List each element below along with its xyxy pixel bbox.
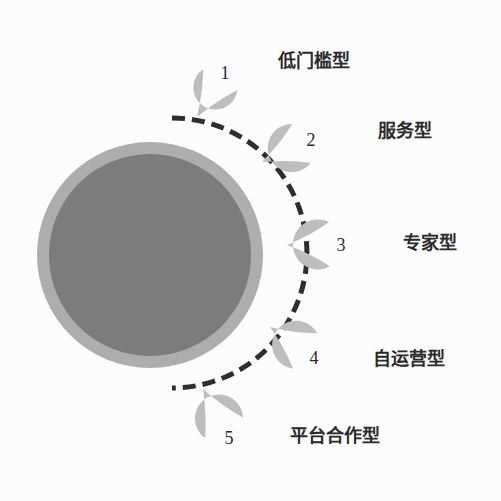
droplet-shape (193, 69, 237, 117)
droplet-5: 5 (195, 389, 243, 448)
droplet-number: 3 (337, 235, 346, 255)
label-low-threshold-type: 低门槛型 (278, 51, 350, 71)
droplet-shape (195, 389, 243, 438)
label-self-operated-type: 自运营型 (373, 349, 445, 369)
label-platform-cooperation-type: 平台合作型 (290, 426, 380, 446)
droplet-number: 4 (310, 348, 319, 368)
droplet-number: 2 (307, 130, 316, 150)
core-circle-fill (49, 154, 251, 356)
droplet-2: 2 (262, 124, 316, 172)
droplet-shape (262, 124, 311, 172)
droplet-1: 1 (193, 63, 237, 117)
droplet-3: 3 (287, 219, 346, 269)
label-service-type: 服务型 (378, 121, 432, 141)
diagram-canvas: 1 2 3 4 5 低门槛型 服务型 专家型 自运营型 平台合作型 (0, 0, 501, 501)
droplet-number: 5 (225, 428, 234, 448)
droplet-number: 1 (221, 63, 230, 83)
label-expert-type: 专家型 (403, 233, 457, 253)
core-circle (37, 142, 263, 368)
droplet-4: 4 (270, 321, 319, 369)
